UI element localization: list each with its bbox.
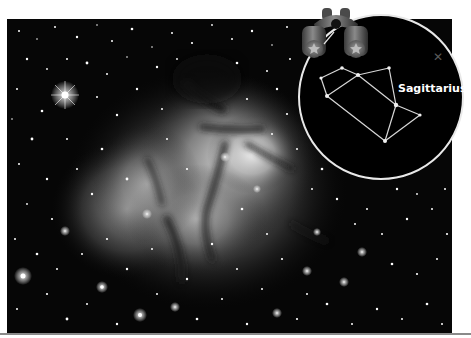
constellation-name-label: Sagittarius (398, 82, 467, 95)
binoculars-icon[interactable] (298, 2, 374, 60)
close-icon[interactable]: ✕ (432, 51, 444, 63)
bottom-divider (0, 333, 471, 335)
